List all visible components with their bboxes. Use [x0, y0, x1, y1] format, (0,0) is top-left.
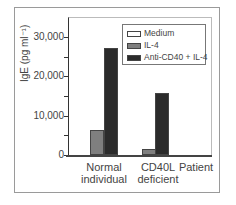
bar-normal-anti-cd40-il4: [104, 48, 118, 155]
y-tick-label: 20,000: [33, 71, 64, 81]
x-category-patient: Patient: [174, 161, 218, 173]
y-tick-20000: [64, 76, 68, 77]
bar-cd40l-anti-cd40-il4: [155, 93, 169, 155]
y-minor-tick: [64, 57, 68, 58]
legend-label: IL-4: [144, 40, 159, 50]
x-category-label: deficient: [128, 173, 188, 185]
legend-swatch-anti-cd40-il4: [127, 55, 141, 61]
legend-swatch-medium: [127, 31, 141, 37]
y-minor-tick: [64, 96, 68, 97]
y-tick-30000: [64, 37, 68, 38]
y-tick-label: 0: [58, 150, 64, 160]
y-axis-title: IgE (pg ml⁻¹): [19, 25, 30, 82]
x-category-label: individual: [74, 173, 134, 185]
legend-item-anti-cd40-il4: Anti-CD40 + IL-4: [127, 52, 208, 62]
y-axis-title-text: IgE (pg ml⁻¹): [19, 25, 30, 82]
legend-label: Medium: [144, 28, 174, 38]
x-axis-baseline: [66, 155, 212, 157]
legend-swatch-il4: [127, 43, 141, 49]
x-category-label: Patient: [174, 161, 218, 173]
y-tick-label: 10,000: [33, 111, 64, 121]
legend-label: Anti-CD40 + IL-4: [144, 52, 208, 62]
x-category-label: Normal: [74, 161, 134, 173]
y-tick-10000: [64, 116, 68, 117]
legend: Medium IL-4 Anti-CD40 + IL-4: [122, 24, 206, 65]
bar-normal-il4: [90, 130, 104, 155]
legend-item-il4: IL-4: [127, 40, 159, 50]
y-minor-tick: [64, 135, 68, 136]
y-tick-label: 30,000: [33, 32, 64, 42]
legend-item-medium: Medium: [127, 28, 174, 38]
x-category-normal-individual: Normal individual: [74, 161, 134, 185]
